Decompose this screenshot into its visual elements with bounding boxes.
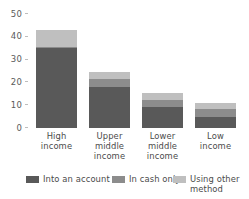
legend-item[interactable]: In cash only xyxy=(112,174,180,184)
stacked-bar-chart: 50403020100 High incomeUpper middle inco… xyxy=(0,0,249,199)
bar-group[interactable] xyxy=(89,14,130,128)
y-axis-tick-label: 30 xyxy=(0,55,22,64)
bar-segment[interactable] xyxy=(142,100,183,108)
bar-group[interactable] xyxy=(195,14,236,128)
x-axis-labels: High incomeUpper middle incomeLower midd… xyxy=(30,131,242,169)
bar-segment[interactable] xyxy=(195,109,236,117)
x-axis-label: Lower middle income xyxy=(136,131,189,162)
x-axis-label: Low income xyxy=(189,131,242,151)
bar-stack xyxy=(142,93,183,128)
y-axis-tick-mark xyxy=(25,104,28,105)
y-axis-tick-mark xyxy=(25,13,28,14)
bar-segment[interactable] xyxy=(89,72,130,79)
bar-stack xyxy=(36,30,77,128)
legend-swatch-icon xyxy=(26,176,39,183)
bar-segment[interactable] xyxy=(142,107,183,128)
y-axis-tick-label: 0 xyxy=(0,124,22,133)
y-axis-tick-mark xyxy=(25,127,28,128)
bar-segment[interactable] xyxy=(36,30,77,47)
bar-segment[interactable] xyxy=(89,79,130,87)
legend-swatch-icon xyxy=(173,176,186,183)
y-axis-tick-mark xyxy=(25,81,28,82)
chart-legend: Into an accountIn cash onlyUsing other m… xyxy=(0,174,249,199)
bar-stack xyxy=(195,103,236,128)
legend-label: Into an account xyxy=(43,174,110,184)
y-axis-tick-label: 10 xyxy=(0,101,22,110)
bar-segment[interactable] xyxy=(36,48,77,128)
y-axis-tick-label: 50 xyxy=(0,10,22,19)
bar-segment[interactable] xyxy=(195,117,236,128)
legend-item[interactable]: Into an account xyxy=(26,174,110,184)
x-axis-label: Upper middle income xyxy=(83,131,136,162)
y-axis-tick-label: 20 xyxy=(0,78,22,87)
bar-group[interactable] xyxy=(36,14,77,128)
y-axis-tick-label: 40 xyxy=(0,32,22,41)
bar-stack xyxy=(89,72,130,128)
bar-segment[interactable] xyxy=(142,93,183,100)
plot-area: 50403020100 xyxy=(30,14,242,128)
y-axis-tick-mark xyxy=(25,59,28,60)
bar-segment[interactable] xyxy=(89,87,130,128)
y-axis-tick-mark xyxy=(25,36,28,37)
legend-label: Using other method xyxy=(190,174,240,194)
legend-swatch-icon xyxy=(112,176,125,183)
bar-series-container xyxy=(30,14,242,128)
bar-group[interactable] xyxy=(142,14,183,128)
legend-item[interactable]: Using other method xyxy=(173,174,240,194)
x-axis-label: High income xyxy=(30,131,83,151)
